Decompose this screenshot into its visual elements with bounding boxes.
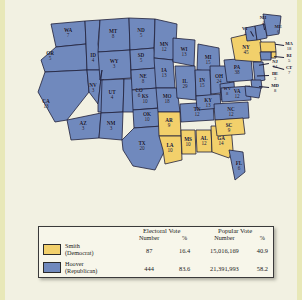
state-label-TX: TX20 <box>138 141 145 151</box>
state-label-SC: SC9 <box>226 123 232 133</box>
legend-swatch-cell-hoover <box>39 259 65 277</box>
state-label-VT: VT4 <box>242 27 248 36</box>
electoral-map: .st{stroke:#20203a;stroke-width:0.8;} .r… <box>5 0 302 218</box>
us-map-svg: .st{stroke:#20203a;stroke-width:0.8;} .r… <box>5 0 302 218</box>
state-label-ID: ID4 <box>90 53 96 63</box>
state-label-MS: MS10 <box>184 137 192 147</box>
candidate-party-hoover: (Republican) <box>65 267 97 274</box>
state-label-NV: NV3 <box>89 83 96 93</box>
hoover-electoral-number: 444 <box>126 259 172 277</box>
state-label-FL: FL6 <box>236 161 242 171</box>
state-label-MN: MN12 <box>160 42 168 52</box>
table-group-header-row: Electoral Vote Popular Vote <box>39 227 273 234</box>
state-label-MT: MT8 <box>109 29 117 39</box>
republican-color-swatch <box>43 262 61 273</box>
state-label-UT: UT4 <box>108 90 115 100</box>
state-shape-CT <box>260 52 271 60</box>
candidate-cell-smith: Smith (Democrat) <box>65 241 126 259</box>
results-table: Electoral Vote Popular Vote Number % Num… <box>39 227 273 277</box>
swatch-subheader-spacer <box>39 234 65 241</box>
democrat-color-swatch <box>43 244 61 255</box>
legend-swatch-cell-smith <box>39 241 65 259</box>
state-shape-CA <box>38 70 89 122</box>
state-label-NC: NC12 <box>227 107 234 117</box>
state-label-SD: SD5 <box>138 53 144 63</box>
smith-popular-number: 15,016,169 <box>197 241 252 259</box>
state-label-MO: MO18 <box>163 94 172 104</box>
electoral-vote-header: Electoral Vote <box>126 227 197 234</box>
state-label-AL: AL12 <box>200 136 207 146</box>
candidate-party-smith: (Democrat) <box>65 249 94 256</box>
state-label-WY: WY3 <box>110 59 119 69</box>
electoral-number-header: Number <box>126 234 172 241</box>
state-label-NY: NY45 <box>242 45 249 55</box>
state-label-OR: OR5 <box>46 51 54 61</box>
state-label-AR: AR9 <box>165 118 172 128</box>
state-label-PA: PA38 <box>234 65 240 75</box>
state-label-OH: OH24 <box>215 74 223 84</box>
table-row: Smith (Democrat) 87 16.4 15,016,169 40.9 <box>39 241 273 259</box>
state-label-LA: LA10 <box>166 143 173 153</box>
state-label-WI: WI13 <box>180 47 187 57</box>
state-label-ND: ND5 <box>137 28 144 38</box>
smith-electoral-number: 87 <box>126 241 172 259</box>
state-shape-MD <box>245 86 261 98</box>
state-label-MD: MD8 <box>271 84 278 93</box>
candidate-subheader-spacer <box>65 234 126 241</box>
poster-frame: .st{stroke:#20203a;stroke-width:0.8;} .r… <box>0 0 302 300</box>
state-shape-MA <box>260 42 276 52</box>
popular-pct-header: % <box>252 234 273 241</box>
table-row: Hoover (Republican) 444 83.6 21,391,993 … <box>39 259 273 277</box>
candidate-header-spacer <box>65 227 126 234</box>
table-sub-header-row: Number % Number % <box>39 234 273 241</box>
state-label-MA: MA18 <box>285 42 292 51</box>
state-label-MI: MI15 <box>205 55 212 65</box>
state-label-DE: DE3 <box>272 72 278 81</box>
hoover-popular-pct: 58.2 <box>252 259 273 277</box>
state-label-WA: WA7 <box>64 28 72 38</box>
popular-vote-header: Popular Vote <box>197 227 273 234</box>
state-label-VA: VA12 <box>234 89 241 99</box>
state-label-TN: TN12 <box>193 107 200 117</box>
state-label-WV: WV8 <box>223 87 231 96</box>
electoral-pct-header: % <box>172 234 197 241</box>
popular-number-header: Number <box>197 234 252 241</box>
state-label-AZ: AZ3 <box>79 121 86 131</box>
state-label-RI: RI5 <box>287 54 292 63</box>
state-label-IN: IN15 <box>199 78 205 88</box>
state-label-CT: CT7 <box>286 66 292 75</box>
hoover-popular-number: 21,391,993 <box>197 259 252 277</box>
state-label-ME: ME6 <box>274 25 281 34</box>
smith-popular-pct: 40.9 <box>252 241 273 259</box>
results-legend: Electoral Vote Popular Vote Number % Num… <box>38 226 274 278</box>
candidate-cell-hoover: Hoover (Republican) <box>65 259 126 277</box>
state-label-GA: GA14 <box>217 136 225 146</box>
state-label-IA: IA13 <box>161 68 167 78</box>
state-label-OK: OK10 <box>143 112 151 122</box>
state-label-IL: IL29 <box>182 79 187 89</box>
hoover-electoral-pct: 83.6 <box>172 259 197 277</box>
state-label-NM: NM3 <box>107 121 115 131</box>
swatch-header-spacer <box>39 227 65 234</box>
state-label-NE: NE8 <box>139 74 146 84</box>
smith-electoral-pct: 16.4 <box>172 241 197 259</box>
state-label-KS: KS10 <box>142 94 149 104</box>
state-label-KY: KY13 <box>204 98 212 108</box>
state-label-CA: CA13 <box>42 99 49 109</box>
